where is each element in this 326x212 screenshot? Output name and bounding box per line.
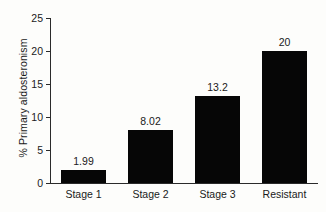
- y-tick-mark: [46, 183, 50, 184]
- x-tick-label: Stage 2: [117, 188, 184, 200]
- y-tick-label: 10: [31, 111, 43, 123]
- bar: [61, 170, 106, 183]
- bar-value-label: 13.2: [207, 81, 227, 93]
- x-axis-tick-labels: Stage 1Stage 2Stage 3Resistant: [50, 188, 318, 206]
- y-axis-title: % Primary aldosteronism: [17, 13, 29, 183]
- bar-group: 20: [262, 18, 307, 183]
- bar: [128, 130, 173, 183]
- y-tick-label: 20: [31, 45, 43, 57]
- bar-series: 1.998.0213.220: [50, 18, 318, 183]
- x-tick-label: Stage 1: [50, 188, 117, 200]
- y-tick-label: 0: [37, 177, 43, 189]
- bar-value-label: 8.02: [140, 115, 160, 127]
- plot-area: 0510152025 1.998.0213.220: [50, 18, 318, 183]
- y-tick-label: 15: [31, 78, 43, 90]
- bar-group: 1.99: [61, 18, 106, 183]
- bar-group: 8.02: [128, 18, 173, 183]
- bar-group: 13.2: [195, 18, 240, 183]
- bar: [262, 51, 307, 183]
- y-tick-label: 5: [37, 144, 43, 156]
- x-tick-label: Resistant: [251, 188, 318, 200]
- x-axis-line: [50, 183, 318, 184]
- bar-value-label: 1.99: [73, 155, 93, 167]
- y-tick-label: 25: [31, 12, 43, 24]
- bar: [195, 96, 240, 183]
- bar-chart: % Primary aldosteronism 0510152025 1.998…: [0, 0, 326, 212]
- x-tick-label: Stage 3: [184, 188, 251, 200]
- bar-value-label: 20: [279, 36, 291, 48]
